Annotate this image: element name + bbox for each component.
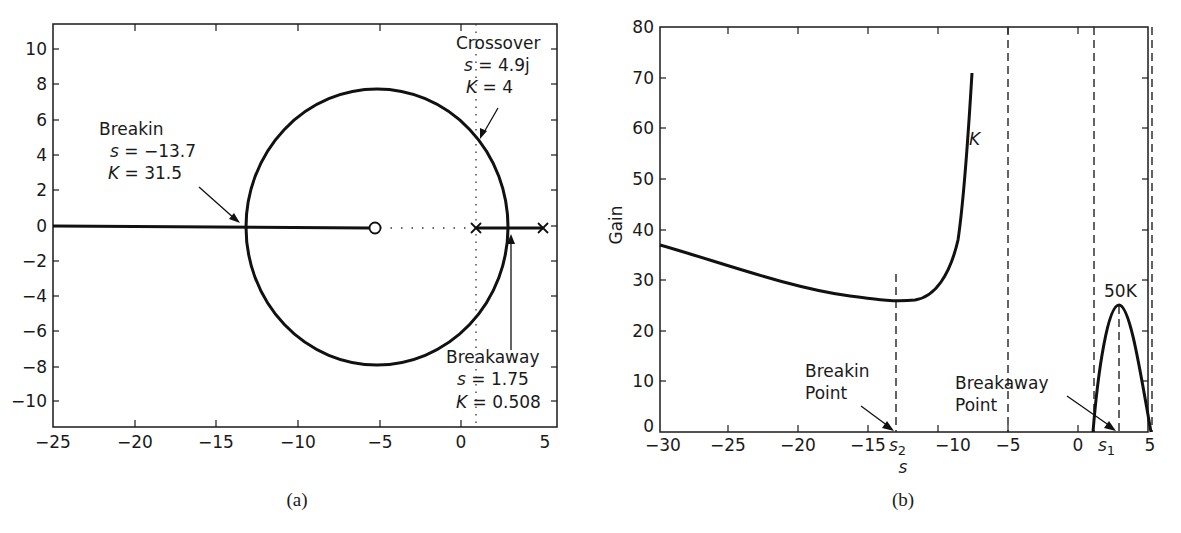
x-tick-label: −15 bbox=[198, 432, 234, 452]
y-tick-label: 50 bbox=[632, 169, 654, 189]
breakin-annotation: Breakin s = −13.7 K = 31.5 bbox=[99, 119, 240, 223]
s1-label: s1 bbox=[1098, 435, 1115, 458]
arrow-line bbox=[861, 406, 888, 426]
y-tick-label: −8 bbox=[22, 357, 47, 377]
y-tick-label: −10 bbox=[11, 391, 47, 411]
y-ticks-b bbox=[660, 78, 1148, 381]
arrow-line bbox=[199, 187, 235, 219]
breakaway-title: Breakaway bbox=[446, 347, 540, 367]
y-tick-label: 10 bbox=[25, 39, 47, 59]
breakaway-point-annotation: Breakaway Point bbox=[955, 373, 1116, 431]
caption-a: (a) bbox=[286, 489, 307, 511]
x-tick-label: −5 bbox=[995, 435, 1020, 455]
y-tick-label: 4 bbox=[36, 145, 47, 165]
breakaway-s-value: s = 1.75 bbox=[457, 369, 529, 389]
crossover-k-value: K = 4 bbox=[466, 77, 513, 97]
x-tick-label: −5 bbox=[367, 432, 392, 452]
locus-real-axis-left bbox=[53, 226, 369, 228]
breakin-k-value: K = 31.5 bbox=[108, 163, 182, 183]
zero-marker-icon bbox=[370, 223, 381, 234]
breakin-s-value: s = −13.7 bbox=[110, 141, 196, 161]
s2-label: s2 bbox=[889, 435, 906, 458]
caption-b: (b) bbox=[892, 489, 914, 511]
x-tick-label: −10 bbox=[280, 432, 316, 452]
x-tick-label: −15 bbox=[850, 435, 886, 455]
x-tick-label: −20 bbox=[117, 432, 153, 452]
x-axis-label: s bbox=[899, 457, 908, 477]
breakin-point-line2: Point bbox=[805, 383, 848, 403]
x-tick-label: −10 bbox=[935, 435, 971, 455]
breakaway-point-line1: Breakaway bbox=[955, 373, 1049, 393]
gain-panel: 80 70 60 50 40 30 20 10 0 Gain −30 −25 −… bbox=[606, 17, 1155, 511]
y-tick-label: 0 bbox=[643, 416, 654, 436]
y-tick-label: 60 bbox=[632, 118, 654, 138]
y-tick-label: 10 bbox=[632, 371, 654, 391]
x-tick-label: 0 bbox=[456, 432, 467, 452]
x-ticks-b bbox=[728, 27, 1078, 432]
y-tick-label: 2 bbox=[36, 180, 47, 200]
breakin-title: Breakin bbox=[99, 119, 164, 139]
y-tick-label: 40 bbox=[632, 220, 654, 240]
crossover-title: Crossover bbox=[456, 33, 541, 53]
y-tick-label: 0 bbox=[36, 216, 47, 236]
dashed-lines bbox=[896, 27, 1152, 432]
plot-frame-b bbox=[660, 27, 1148, 432]
breakaway-k-value: K = 0.508 bbox=[456, 392, 541, 412]
x-tick-label: −25 bbox=[710, 435, 746, 455]
x-tick-label: 0 bbox=[1073, 435, 1084, 455]
x-tick-label: 5 bbox=[540, 432, 551, 452]
breakaway-annotation: Breakaway s = 1.75 K = 0.508 bbox=[446, 234, 541, 412]
k-curve bbox=[660, 73, 972, 301]
fifty-k-curve-label: 50K bbox=[1104, 281, 1138, 301]
y-tick-label: −4 bbox=[22, 286, 47, 306]
y-tick-labels-a: 10 8 6 4 2 0 −2 −4 −6 −8 −10 bbox=[11, 39, 47, 411]
y-tick-label: −2 bbox=[22, 251, 47, 271]
x-tick-label: −25 bbox=[35, 432, 71, 452]
y-tick-label: −6 bbox=[22, 321, 47, 341]
y-tick-label: 20 bbox=[632, 321, 654, 341]
x-tick-label: 5 bbox=[1145, 435, 1156, 455]
k-curve-label: K bbox=[969, 129, 982, 149]
crossover-annotation: Crossover s = 4.9j K = 4 bbox=[456, 33, 541, 139]
x-tick-labels-a: −25 −20 −15 −10 −5 0 5 bbox=[35, 432, 550, 452]
x-tick-label: −20 bbox=[780, 435, 816, 455]
breakin-point-line1: Breakin bbox=[805, 361, 870, 381]
y-tick-label: 8 bbox=[36, 74, 47, 94]
y-tick-label: 70 bbox=[632, 68, 654, 88]
breakaway-point-line2: Point bbox=[955, 395, 998, 415]
root-locus-panel: 10 8 6 4 2 0 −2 −4 −6 −8 −10 −25 −20 −15… bbox=[11, 24, 557, 511]
x-tick-label: −30 bbox=[645, 435, 681, 455]
breakin-point-annotation: Breakin Point bbox=[805, 361, 894, 431]
crossover-s-value: s = 4.9j bbox=[464, 55, 530, 75]
fifty-k-curve bbox=[1093, 305, 1151, 432]
y-tick-labels-b: 80 70 60 50 40 30 20 10 0 bbox=[632, 17, 654, 436]
arrow-line bbox=[483, 108, 498, 134]
figure: 10 8 6 4 2 0 −2 −4 −6 −8 −10 −25 −20 −15… bbox=[0, 0, 1181, 533]
y-axis-label: Gain bbox=[606, 205, 626, 244]
y-tick-label: 80 bbox=[632, 17, 654, 37]
y-tick-label: 6 bbox=[36, 110, 47, 130]
arrow-line bbox=[1067, 396, 1110, 426]
y-tick-label: 30 bbox=[632, 270, 654, 290]
